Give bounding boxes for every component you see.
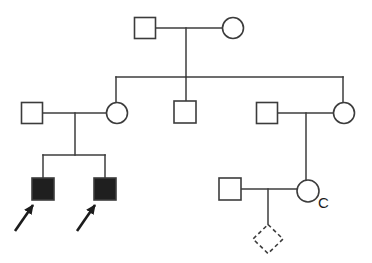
person-II-5-female [334,103,355,124]
label-C: C [318,194,329,211]
person-II-3-male [174,101,196,123]
person-I-1-male [135,18,156,39]
person-IV-1-unknown [253,225,283,254]
proband-arrows [15,205,95,231]
person-III-2-male-affected [94,178,116,200]
pedigree-chart: C [0,0,372,263]
person-I-2-female [223,18,244,39]
person-II-1-male [22,103,43,124]
person-II-2-female [107,103,128,124]
person-III-4-female [297,180,319,202]
individuals [22,18,355,254]
annotations: C [318,194,329,211]
proband-arrow-III-2 [77,205,95,231]
proband-arrow-III-1 [15,205,33,231]
pedigree-diagram: C [0,0,372,263]
person-III-1-male-affected [32,178,54,200]
person-II-4-male [257,103,278,124]
person-III-3-male [219,178,241,200]
